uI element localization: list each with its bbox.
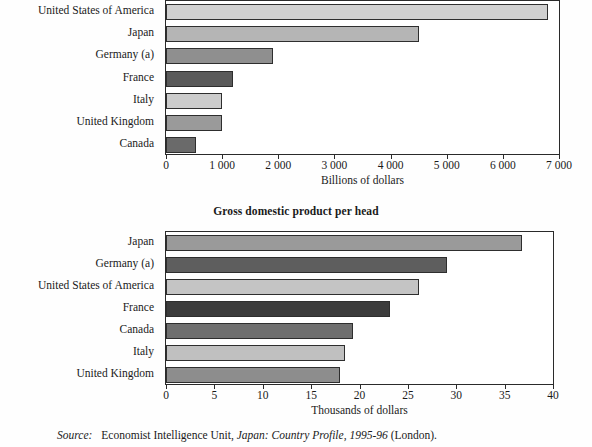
category-label: United Kingdom: [76, 368, 154, 380]
category-label: Italy: [133, 346, 154, 358]
chart1-title: Gross domestic product per head: [0, 205, 592, 217]
category-label: France: [123, 72, 154, 84]
category-label: Canada: [120, 138, 154, 150]
category-label: United Kingdom: [76, 116, 154, 128]
category-label: Germany (a): [96, 49, 154, 61]
x-tick-label: 5 000: [434, 160, 460, 172]
bar-united-kingdom: [166, 115, 222, 131]
x-tick-label: 1 000: [209, 160, 235, 172]
figure-gross-domestic-product: United States of AmericaJapanGermany (a)…: [0, 0, 592, 447]
x-tick-label: 4 000: [378, 160, 404, 172]
bar-germany-a: [166, 48, 273, 64]
chart1-category-labels: JapanGermany (a)United States of America…: [0, 231, 160, 385]
bar-italy: [166, 345, 345, 361]
bar-italy: [166, 93, 222, 109]
category-label: United States of America: [38, 5, 154, 17]
category-label: Italy: [133, 94, 154, 106]
x-tick-label: 3 000: [321, 160, 347, 172]
bar-canada: [166, 323, 353, 339]
x-tick-label: 5: [212, 390, 218, 402]
bar-canada: [166, 137, 196, 153]
category-label: Japan: [128, 27, 154, 39]
bar-united-states-of-america: [166, 4, 548, 20]
chart0-category-labels: United States of AmericaJapanGermany (a)…: [0, 0, 160, 155]
category-label: France: [123, 302, 154, 314]
bar-japan: [166, 26, 419, 42]
x-tick-label: 15: [305, 390, 317, 402]
chart0-plot-area: [165, 0, 560, 155]
x-tick-label: 6 000: [490, 160, 516, 172]
bar-france: [166, 71, 233, 87]
category-label: Canada: [120, 324, 154, 336]
x-tick-label: 25: [402, 390, 414, 402]
chart0-x-axis-title: Billions of dollars: [165, 175, 560, 187]
chart1-plot-area: [165, 231, 554, 385]
x-tick-label: 30: [451, 390, 463, 402]
source-publisher: Economist Intelligence Unit,: [101, 429, 234, 441]
x-tick-label: 7 000: [546, 160, 572, 172]
category-label: Japan: [128, 236, 154, 248]
category-label: United States of America: [38, 280, 154, 292]
x-tick-label: 2 000: [265, 160, 291, 172]
x-tick-label: 35: [499, 390, 511, 402]
x-tick-label: 40: [547, 390, 559, 402]
bar-germany-a: [166, 257, 447, 273]
source-title: Japan: Country Profile, 1995-96: [237, 429, 388, 441]
bar-japan: [166, 235, 522, 251]
x-tick-label: 20: [354, 390, 366, 402]
x-tick-label: 10: [257, 390, 269, 402]
x-tick-label: 0: [163, 160, 169, 172]
source-label: Source:: [57, 429, 92, 441]
bar-france: [166, 301, 390, 317]
category-label: Germany (a): [96, 258, 154, 270]
chart-gross-domestic-product-per-head: Gross domestic product per head JapanGer…: [0, 205, 592, 420]
bar-united-kingdom: [166, 367, 340, 383]
x-tick-label: 0: [163, 390, 169, 402]
source-place: (London).: [391, 429, 437, 441]
source-note: Source:Economist Intelligence Unit, Japa…: [57, 430, 437, 442]
chart1-x-axis-title: Thousands of dollars: [165, 405, 554, 417]
bar-united-states-of-america: [166, 279, 419, 295]
chart-gross-domestic-product-total: United States of AmericaJapanGermany (a)…: [0, 0, 592, 196]
